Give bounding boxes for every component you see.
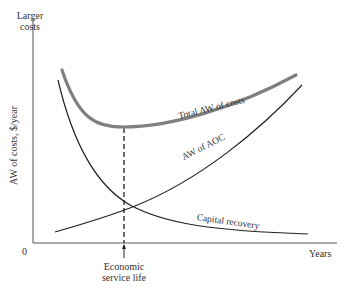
aw-of-aoc-curve <box>55 85 302 232</box>
y-axis-title: AW of costs, $/year <box>8 106 19 185</box>
y-axis-top-label: Largercosts <box>8 10 52 32</box>
economic-service-life-label: Economic service life <box>96 261 152 283</box>
chart-plot <box>0 0 352 288</box>
arrow-head-icon <box>122 244 126 249</box>
x-axis-title: Years <box>309 248 331 259</box>
esl-line2: service life <box>96 272 152 283</box>
chart-container: Largercosts AW of costs, $/year 0 Years … <box>0 0 352 288</box>
esl-line1: Economic <box>96 261 152 272</box>
y-top-text: Largercosts <box>8 10 52 32</box>
origin-label: 0 <box>22 246 27 257</box>
